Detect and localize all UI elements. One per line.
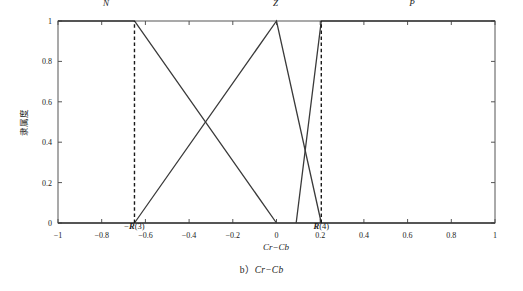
x-tick-label: −0.4: [182, 231, 197, 240]
x-tick-label: 0.2: [315, 231, 325, 240]
y-tick-label: 1: [48, 17, 52, 26]
x-axis-tick-labels: −1−0.8−0.6−0.4−0.200.20.40.60.81: [54, 231, 497, 240]
x-tick-label: 0.4: [359, 231, 369, 240]
y-tick-label: 0.8: [42, 57, 52, 66]
y-tick-label: 0.4: [42, 138, 52, 147]
set-label-N: N: [102, 0, 110, 8]
y-axis-title: 隶属度: [19, 109, 29, 136]
x-tick-label: −0.2: [226, 231, 241, 240]
x-tick-label: −1: [54, 231, 63, 240]
annotation-label-neg-R3: −R(3): [124, 221, 145, 231]
annot-suffix: (3): [135, 221, 145, 231]
y-tick-label: 0: [48, 219, 52, 228]
x-tick-label: 0.8: [446, 231, 456, 240]
caption-prefix: b）: [240, 265, 255, 275]
x-tick-label: 1: [493, 231, 497, 240]
figure-caption: b）Cr−Cb: [0, 262, 523, 276]
plot-frame: [58, 21, 495, 223]
set-label-P: P: [408, 0, 415, 8]
set-label-Z: Z: [273, 0, 279, 8]
fuzzy-set-labels: NZP: [102, 0, 415, 8]
caption-italic-text: Cr−Cb: [255, 265, 284, 275]
x-tick-label: 0: [275, 231, 279, 240]
annotation-label-R4: R(4): [312, 221, 329, 231]
x-axis-title: Cr−Cb: [263, 242, 290, 252]
y-axis-tick-labels: 00.20.40.60.81: [42, 17, 52, 228]
figure-container: −1−0.8−0.6−0.4−0.200.20.40.60.81 00.20.4…: [0, 0, 523, 291]
x-tick-label: −0.8: [94, 231, 109, 240]
annot-suffix: (4): [319, 221, 329, 231]
y-tick-label: 0.2: [42, 179, 52, 188]
x-tick-label: 0.6: [403, 231, 413, 240]
fuzzy-membership-chart: −1−0.8−0.6−0.4−0.200.20.40.60.81 00.20.4…: [0, 0, 523, 291]
y-tick-label: 0.6: [42, 98, 52, 107]
x-tick-label: −0.6: [138, 231, 153, 240]
plot-area-border: [58, 21, 495, 223]
